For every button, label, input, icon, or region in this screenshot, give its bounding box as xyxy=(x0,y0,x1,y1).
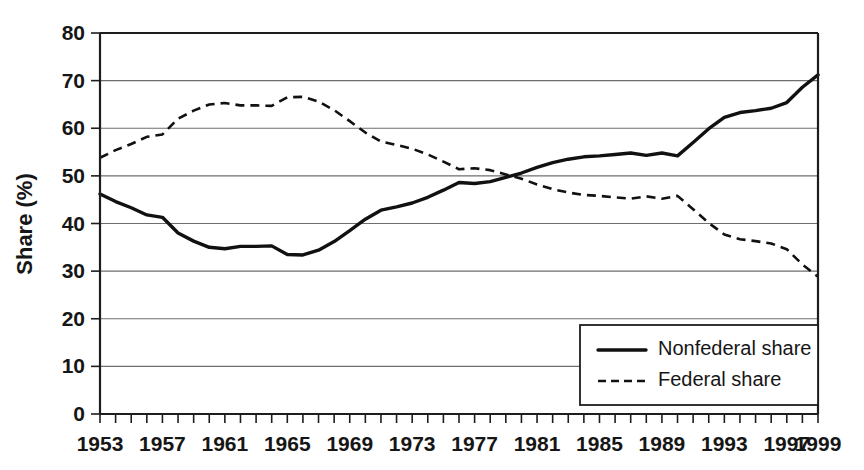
legend-label-nonfederal-share: Nonfederal share xyxy=(658,337,811,359)
x-tick-label-1989: 1989 xyxy=(639,432,686,455)
x-tick-label-1953: 1953 xyxy=(77,432,124,455)
y-axis-tick-labels: 01020304050607080 xyxy=(62,21,85,425)
y-tick-label-70: 70 xyxy=(62,69,85,92)
x-tick-label-1969: 1969 xyxy=(326,432,373,455)
y-axis-title: Share (%) xyxy=(12,173,37,274)
grid-lines xyxy=(100,33,818,366)
y-tick-label-60: 60 xyxy=(62,116,85,139)
y-tick-label-80: 80 xyxy=(62,21,85,44)
x-tick-label-1977: 1977 xyxy=(451,432,498,455)
x-tick-label-1993: 1993 xyxy=(701,432,748,455)
x-tick-label-1999: 1999 xyxy=(795,432,842,455)
y-tick-label-0: 0 xyxy=(73,402,85,425)
x-tick-label-1961: 1961 xyxy=(202,432,249,455)
x-tick-label-1981: 1981 xyxy=(514,432,561,455)
series-line-federal-share xyxy=(100,97,818,277)
y-tick-label-10: 10 xyxy=(62,354,85,377)
x-tick-label-1985: 1985 xyxy=(576,432,623,455)
chart-container: 01020304050607080 1953195719611965196919… xyxy=(0,0,864,470)
legend-label-federal-share: Federal share xyxy=(658,368,781,390)
x-tick-label-1957: 1957 xyxy=(139,432,186,455)
share-line-chart: 01020304050607080 1953195719611965196919… xyxy=(0,0,864,470)
y-tick-label-30: 30 xyxy=(62,259,85,282)
y-tick-label-20: 20 xyxy=(62,307,85,330)
x-tick-label-1965: 1965 xyxy=(264,432,311,455)
y-tick-label-50: 50 xyxy=(62,164,85,187)
y-axis-ticks xyxy=(91,33,100,414)
x-tick-label-1973: 1973 xyxy=(389,432,436,455)
y-tick-label-40: 40 xyxy=(62,212,85,235)
chart-legend: Nonfederal share Federal share xyxy=(580,325,818,405)
x-axis-ticks xyxy=(100,414,818,423)
x-axis-tick-labels: 1953195719611965196919731977198119851989… xyxy=(77,432,842,455)
series-line-nonfederal-share xyxy=(100,75,818,255)
